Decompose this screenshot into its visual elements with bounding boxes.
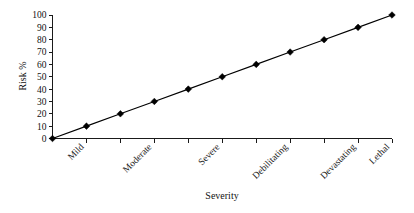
chart-page: 0102030405060708090100 Risk % MildModera…: [0, 0, 414, 213]
y-tick-label: 60: [37, 60, 47, 70]
chart-background: [0, 0, 414, 213]
y-axis-title: Risk %: [17, 61, 28, 90]
y-tick-label: 100: [32, 10, 47, 20]
y-tick-label: 70: [37, 47, 47, 57]
y-tick-label: 10: [37, 122, 47, 132]
y-tick-label: 20: [37, 109, 47, 119]
y-tick-label: 80: [37, 35, 47, 45]
y-tick-label: 50: [37, 72, 47, 82]
x-axis-title: Severity: [205, 190, 238, 201]
y-tick-label: 0: [42, 134, 47, 144]
y-tick-label: 40: [37, 85, 47, 95]
y-tick-label: 30: [37, 97, 47, 107]
y-tick-label: 90: [37, 23, 47, 33]
risk-severity-line-chart: 0102030405060708090100 Risk % MildModera…: [0, 0, 414, 213]
